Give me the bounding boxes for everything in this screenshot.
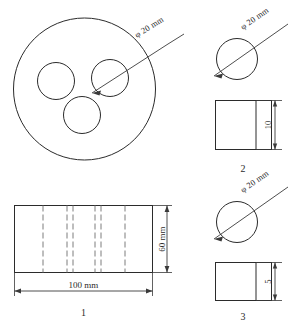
item-1-end-view: φ 20 mm [14, 14, 185, 160]
item-1-height-arrow-bottom [165, 266, 170, 273]
item-2-thickness-label: 10 [263, 121, 273, 130]
item-1-number-label: 1 [81, 307, 86, 318]
item-1-hole-right [92, 60, 129, 97]
technical-drawing-canvas: φ 20 mm 60 mm 100 mm 1 [0, 0, 305, 329]
item-1-leader-tail [168, 34, 184, 44]
item-3-thickness-arrow-bottom [273, 295, 277, 301]
item-2-diameter-leader [214, 24, 288, 76]
item-1-hole-bottom [64, 97, 101, 134]
item-2-number-label: 2 [241, 163, 246, 174]
item-2-diameter-label: φ 20 mm [238, 5, 270, 32]
item-3-thickness-label: 5 [263, 279, 273, 283]
item-3-leader-arrowhead [214, 237, 223, 242]
item-1-hole-left [38, 63, 75, 100]
item-1-outer-circle [14, 18, 156, 160]
item-3-diameter-leader [214, 187, 288, 239]
item-1-height-arrow-top [165, 206, 170, 213]
item-1-width-arrow-left [15, 289, 22, 294]
item-2-thickness-arrow-top [273, 101, 277, 107]
item-1-diameter-leader [92, 44, 168, 93]
item-3-side-view: 5 3 [216, 263, 283, 323]
item-3-end-view: φ 20 mm [214, 168, 288, 243]
item-1-side-rectangle [15, 206, 153, 273]
item-2-thickness-arrow-bottom [273, 144, 277, 150]
item-3-thickness-arrow-top [273, 263, 277, 269]
item-1-diameter-label: φ 20 mm [133, 14, 166, 40]
item-2-side-view: 10 2 [216, 101, 283, 175]
item-1-width-arrow-right [146, 289, 153, 294]
drawing-sheet: φ 20 mm 60 mm 100 mm 1 [0, 0, 305, 329]
item-2-circle [217, 39, 258, 80]
item-1-side-view: 60 mm 100 mm 1 [15, 206, 173, 319]
item-2-end-view: φ 20 mm [214, 5, 288, 80]
item-3-number-label: 3 [241, 311, 246, 322]
item-2-leader-arrowhead [214, 74, 223, 79]
item-1-width-label: 100 mm [69, 280, 99, 290]
item-1-height-label: 60 mm [157, 226, 167, 251]
item-3-circle [217, 202, 258, 243]
